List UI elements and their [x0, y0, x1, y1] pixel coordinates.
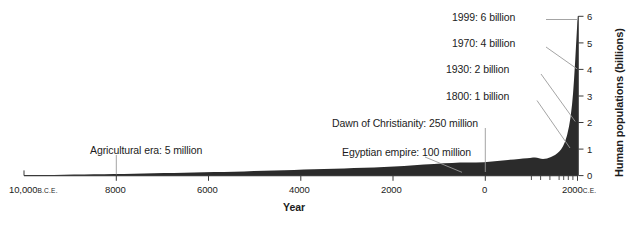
x-axis-title: Year: [283, 202, 305, 213]
annotation-egyptian-empire: Egyptian empire: 100 million: [342, 147, 471, 158]
leader-line-1970: [546, 47, 577, 69]
x-tick-label-0: 0: [482, 185, 487, 195]
annotation-1970: 1970: 4 billion: [452, 38, 515, 49]
y-tick-label-5: 5: [587, 39, 592, 49]
annotation-1800: 1800: 1 billion: [446, 91, 509, 102]
x-tick-label--4000: 4000: [289, 185, 310, 195]
annotation-1930: 1930: 2 billion: [446, 64, 509, 75]
x-tick-label--10000-value: 10,000: [9, 184, 37, 195]
y-tick-label-0: 0: [587, 171, 592, 181]
x-tick-label--10000-era: B.C.E.: [37, 187, 57, 194]
annotation-agricultural-era: Agricultural era: 5 million: [90, 145, 202, 156]
x-tick-label--10000: 10,000B.C.E.: [9, 185, 58, 195]
x-tick-label-2000-value: 2000: [562, 184, 583, 195]
x-tick-label--2000: 2000: [381, 185, 402, 195]
x-tick-label--6000: 6000: [197, 185, 218, 195]
annotation-1999: 1999: 6 billion: [452, 12, 515, 23]
population-growth-chart: Agricultural era: 5 million Egyptian emp…: [0, 0, 633, 227]
y-axis-title: Human populations (billions): [614, 28, 625, 177]
x-tick-label--8000: 8000: [105, 185, 126, 195]
y-tick-label-1: 1: [587, 145, 592, 155]
chart-canvas: [0, 0, 633, 227]
y-tick-label-2: 2: [587, 118, 592, 128]
y-tick-label-3: 3: [587, 92, 592, 102]
annotation-dawn-christianity: Dawn of Christianity: 250 million: [332, 118, 478, 129]
y-axis-ticks: [578, 16, 583, 175]
y-tick-label-6: 6: [587, 12, 592, 22]
x-tick-label-2000-era: C.E.: [583, 187, 597, 194]
x-axis-minor-ticks: [531, 176, 573, 180]
x-tick-label-2000: 2000C.E.: [562, 185, 596, 195]
y-tick-label-4: 4: [587, 65, 592, 75]
